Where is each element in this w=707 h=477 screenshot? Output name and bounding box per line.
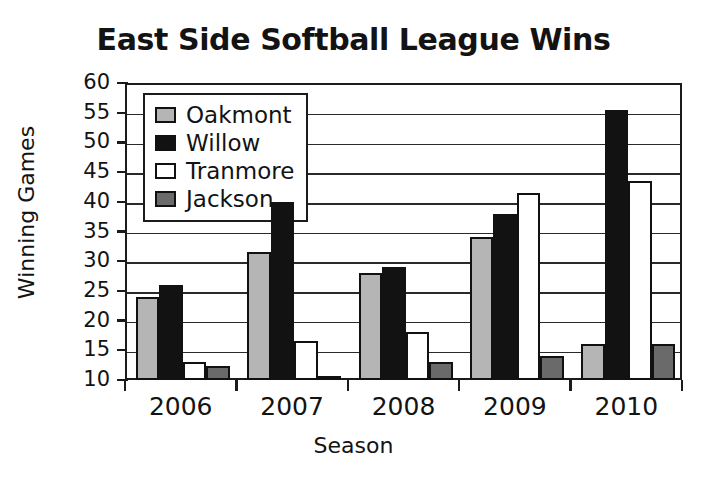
x-tick-mark: [569, 380, 571, 391]
x-tick-label-2010: 2010: [566, 392, 686, 421]
y-axis-title: Winning Games: [14, 113, 39, 313]
legend-label: Jackson: [186, 188, 273, 211]
bar-willow-2008: [382, 267, 406, 380]
bar-willow-2007: [271, 202, 295, 380]
legend-swatch-icon: [155, 107, 176, 123]
bar-oakmont-2009: [470, 237, 494, 380]
y-tick-label: 55: [64, 102, 110, 123]
x-tick-mark: [347, 380, 349, 391]
x-tick-mark: [458, 380, 460, 391]
legend-item-willow: Willow: [155, 129, 294, 157]
x-tick-label-2007: 2007: [232, 392, 352, 421]
bar-oakmont-2010: [581, 344, 605, 380]
x-tick-label-2008: 2008: [344, 392, 464, 421]
x-tick-label-2006: 2006: [121, 392, 241, 421]
y-tick-label: 50: [64, 131, 110, 152]
bar-oakmont-2007: [247, 252, 271, 380]
x-tick-mark: [235, 380, 237, 391]
legend-item-tranmore: Tranmore: [155, 157, 294, 185]
y-tick-label: 35: [64, 221, 110, 242]
x-axis-title: Season: [0, 433, 707, 458]
bar-tranmore-2007: [294, 341, 318, 380]
bar-oakmont-2008: [359, 273, 383, 380]
x-tick-label-2009: 2009: [455, 392, 575, 421]
bar-chart: East Side Softball League Wins Winning G…: [0, 0, 707, 477]
bar-jackson-2010: [652, 344, 676, 380]
y-tick-label: 60: [64, 72, 110, 93]
bar-oakmont-2006: [136, 297, 160, 380]
bar-jackson-2009: [540, 356, 564, 380]
y-tick-label: 25: [64, 280, 110, 301]
bar-jackson-2007: [318, 376, 342, 380]
y-tick-label: 20: [64, 310, 110, 331]
legend-swatch-icon: [155, 135, 176, 151]
y-tick-label: 30: [64, 250, 110, 271]
bar-tranmore-2008: [406, 332, 430, 380]
y-axis-tick-labels: 6055504540353025201510: [58, 0, 110, 477]
legend-label: Tranmore: [186, 160, 294, 183]
x-tick-mark: [124, 380, 126, 391]
bar-tranmore-2009: [517, 193, 541, 380]
legend-label: Oakmont: [186, 104, 292, 127]
y-tick-label: 15: [64, 339, 110, 360]
bar-jackson-2006: [206, 366, 230, 380]
legend-swatch-icon: [155, 163, 176, 179]
legend-label: Willow: [186, 132, 260, 155]
legend-swatch-icon: [155, 191, 176, 207]
bar-willow-2006: [159, 285, 183, 380]
x-tick-mark: [681, 380, 683, 391]
y-tick-label: 10: [64, 369, 110, 390]
legend-item-oakmont: Oakmont: [155, 101, 294, 129]
bar-tranmore-2010: [628, 181, 652, 380]
y-tick-label: 40: [64, 191, 110, 212]
bar-willow-2009: [493, 214, 517, 380]
bar-tranmore-2006: [183, 362, 207, 380]
bar-willow-2010: [605, 110, 629, 380]
y-tick-label: 45: [64, 161, 110, 182]
bar-jackson-2008: [429, 362, 453, 380]
